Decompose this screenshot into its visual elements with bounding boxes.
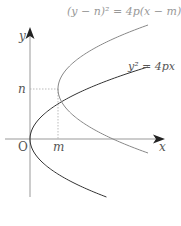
n-label: n	[18, 82, 26, 96]
shifted-equation-label: (y − n)² = 4p(x − m)	[67, 5, 181, 18]
parabola-diagram: y x O m n y² = 4px (y − n)² = 4p(x − m)	[0, 0, 181, 226]
x-axis-label: x	[159, 140, 166, 154]
shifted-parabola-curve	[58, 25, 148, 153]
m-label: m	[53, 140, 64, 154]
origin-label: O	[18, 140, 28, 154]
y-axis-label: y	[18, 29, 26, 43]
standard-parabola-curve	[30, 67, 148, 197]
standard-equation-label: y² = 4px	[127, 60, 176, 73]
